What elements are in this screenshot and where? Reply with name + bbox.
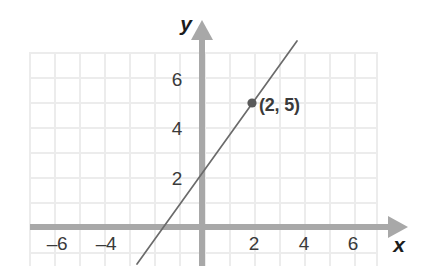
x-axis-label: x [393, 234, 405, 255]
x-tick-label-neg6: –6 [47, 234, 68, 253]
x-tick-label-6: 6 [348, 234, 358, 253]
y-tick-label-4: 4 [172, 119, 182, 138]
x-tick-label-neg4: –4 [96, 234, 117, 253]
x-tick-label-2: 2 [249, 234, 259, 253]
graph-canvas [0, 0, 432, 272]
x-tick-label-4: 4 [299, 234, 309, 253]
y-axis-arrow-icon [191, 20, 213, 40]
point-coordinate-label: (2, 5) [259, 96, 300, 114]
y-axis-label: y [180, 13, 192, 34]
plotted-point-group [247, 98, 256, 107]
plotted-point-dot [247, 98, 256, 107]
y-tick-label-2: 2 [172, 169, 182, 188]
coordinate-plane-graph: –6 –4 2 4 6 6 4 2 y x (2, 5) [0, 0, 432, 272]
y-tick-label-6: 6 [172, 70, 182, 89]
